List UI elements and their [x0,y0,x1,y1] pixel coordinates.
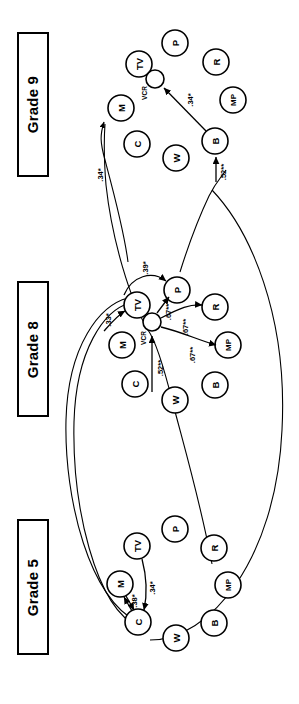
node-label-grade5-P: P [170,525,181,532]
node-label-grade9-W: W [171,153,182,162]
coef-grade8-VCR-to-MP: .67** [188,347,197,363]
coef-grade8-VCR-to-P: .67** [164,304,173,320]
node-label-grade8-M: M [117,341,128,349]
node-label-grade9-B: B [210,137,221,144]
coef-grade8-into-TV: .33* [104,313,113,326]
node-grade8-MP[interactable]: MP [215,332,241,358]
node-label-grade5-W: W [171,633,182,642]
node-grade8-B[interactable]: B [202,372,228,398]
diagram-canvas: Grade 9 Grade 8 Grade 5 TV [0,0,299,704]
node-label-grade8-VCR: VCR [140,331,147,345]
node-grade5-C[interactable]: C [125,609,151,635]
coef-grade8-TV-to-P: .39* [141,261,150,274]
coef-grade8-W-to-VCR: .52** [156,360,165,376]
node-label-grade5-C: C [133,618,144,625]
node-grade9-P[interactable]: P [162,30,188,56]
node-grade5-MP[interactable]: MP [215,572,241,598]
crosslag-curve-w5-to-b9 [150,190,283,640]
coef-grade5-TV-to-C: .34* [148,581,157,594]
node-label-grade9-VCR: VCR [141,86,148,100]
node-grade8-M[interactable]: M [109,332,135,358]
node-label-grade9-M: M [116,104,127,112]
node-label-grade8-TV: TV [132,298,143,311]
node-label-grade5-M: M [115,580,126,588]
node-label-grade9-R: R [211,58,222,65]
coef-grade5-M-to-C: .38* [130,594,139,607]
node-label-grade8-MP: MP [224,338,233,351]
node-grade5-P[interactable]: P [162,516,188,542]
node-grade5-W[interactable]: W [163,625,189,651]
node-grade9-B[interactable]: B [202,128,228,154]
node-label-grade9-MP: MP [229,93,238,106]
node-grade5-TV[interactable]: TV [124,533,150,559]
node-label-grade8-P: P [172,286,183,293]
node-label-grade5-MP: MP [224,578,233,591]
node-label-grade9-P: P [170,39,181,46]
coef-grade9-into-B: .52** [219,164,228,180]
node-label-grade8-W: W [170,395,181,404]
node-grade9-W[interactable]: W [163,145,189,171]
node-grade8-W[interactable]: W [162,387,188,413]
node-grade8-VCR[interactable]: VCR [140,313,162,345]
node-label-grade9-C: C [132,140,143,147]
coef-grade9-B-to-VCR: .34* [186,93,195,106]
node-grade5-M[interactable]: M [107,571,133,597]
node-grade9-C[interactable]: C [124,131,150,157]
node-grade9-MP[interactable]: MP [220,87,246,113]
node-grade5-B[interactable]: B [201,610,227,636]
node-label-grade8-R: R [210,303,221,310]
node-label-grade5-R: R [209,544,220,551]
node-label-grade8-C: C [130,380,141,387]
node-grade9-R[interactable]: R [203,49,229,75]
node-grade5-R[interactable]: R [201,535,227,561]
coef-grade9-into-M: .34* [96,168,105,181]
node-label-grade8-B: B [210,381,221,388]
node-grade8-R[interactable]: R [202,294,228,320]
node-grade8-C[interactable]: C [122,371,148,397]
node-grade8-TV[interactable]: TV [124,292,150,318]
path-diagram-svg: TV P R MP M C W B [0,0,299,704]
crosslag-curve-p8-to-b9 [180,170,226,272]
node-label-grade9-TV: TV [134,57,145,70]
node-label-grade5-TV: TV [132,539,143,552]
edge-grade5-TV-to-C [142,559,146,610]
node-label-grade5-B: B [209,619,220,626]
node-grade9-M[interactable]: M [108,95,134,121]
